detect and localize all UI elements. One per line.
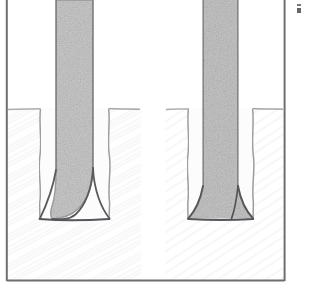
center-gutter <box>141 0 165 281</box>
left-tenon-body <box>51 0 93 219</box>
left-shoulder-line-right <box>109 109 140 110</box>
scan-speck-artifact <box>297 4 301 13</box>
joinery-illustration <box>0 0 309 290</box>
right-mortise-floor <box>188 219 253 220</box>
right-shoulder-line-left <box>166 109 188 110</box>
left-shoulder-line-outer <box>8 109 40 110</box>
figure-root <box>0 0 309 290</box>
left-tenon <box>51 0 93 219</box>
right-shoulder-line-right <box>253 109 283 110</box>
